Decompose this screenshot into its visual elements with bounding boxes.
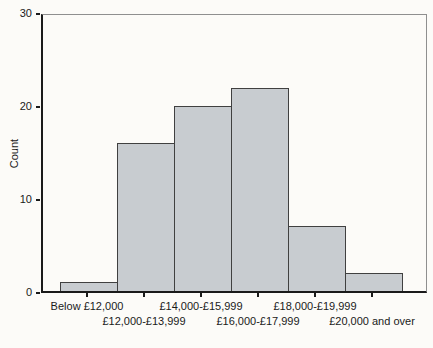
x-tick-label: £20,000 and over [329, 315, 415, 327]
histogram-bar [60, 282, 118, 291]
histogram-bar [174, 106, 232, 291]
y-axis-title: Count [9, 126, 20, 180]
y-axis-tick [36, 292, 40, 294]
y-axis-tick [36, 106, 40, 108]
x-axis-tick [143, 293, 145, 297]
y-tick-label: 10 [8, 194, 32, 205]
y-tick-label: 0 [8, 287, 32, 298]
histogram-bar [288, 226, 346, 291]
histogram-bar [231, 88, 289, 291]
x-axis-tick [371, 293, 373, 297]
y-tick-label: 30 [8, 8, 32, 19]
x-tick-label: £18,000-£19,999 [273, 300, 356, 312]
x-tick-label: Below £12,000 [51, 300, 124, 312]
histogram-bar [345, 273, 403, 291]
x-tick-label: £14,000-£15,999 [159, 300, 242, 312]
plot-area [41, 14, 427, 293]
x-axis-tick [314, 293, 316, 297]
x-axis-tick [200, 293, 202, 297]
x-axis-tick [257, 293, 259, 297]
histogram-figure: Count 0102030 Below £12,000£12,000-£13,9… [0, 0, 433, 348]
y-tick-label: 20 [8, 101, 32, 112]
x-axis-tick [86, 293, 88, 297]
x-tick-label: £16,000-£17,999 [216, 315, 299, 327]
y-axis-tick [36, 13, 40, 15]
histogram-bar [117, 143, 175, 291]
y-axis-tick [36, 199, 40, 201]
x-tick-label: £12,000-£13,999 [102, 315, 185, 327]
